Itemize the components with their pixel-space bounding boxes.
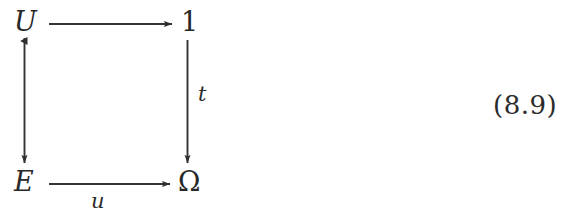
equation-number: (8.9) (493, 92, 557, 118)
diagram-node-U: U (14, 8, 37, 35)
arrow-label-t: t (198, 84, 206, 105)
diagram-page: U 1 E Ω t u (8.9) (0, 0, 564, 223)
diagram-node-one: 1 (181, 8, 198, 35)
diagram-node-omega: Ω (178, 168, 200, 195)
arrow-label-u: u (91, 191, 105, 212)
commutative-diagram-canvas (0, 0, 564, 223)
diagram-node-E: E (14, 168, 34, 195)
